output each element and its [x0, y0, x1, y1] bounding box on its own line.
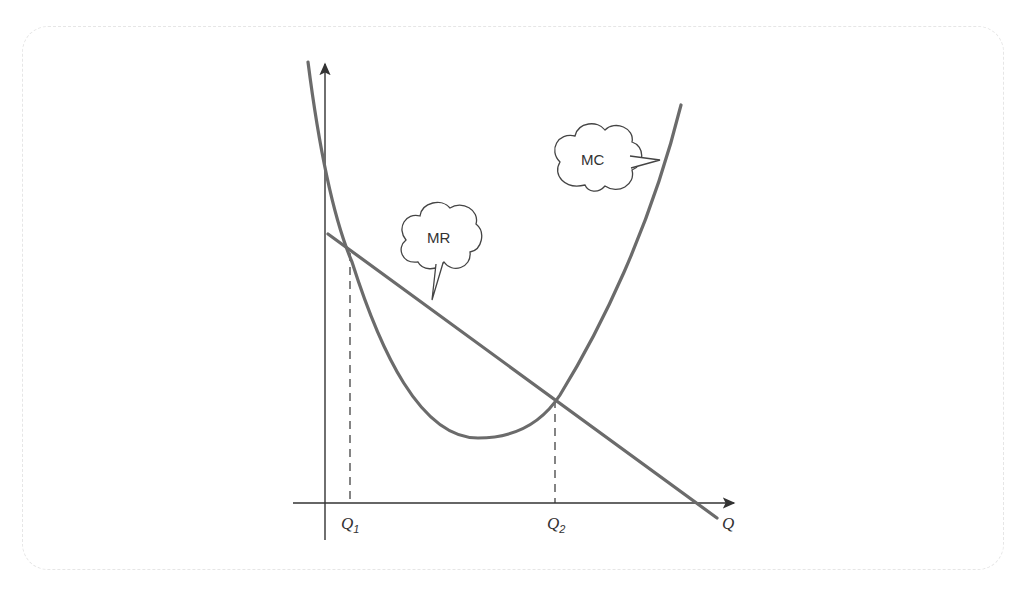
mr-label: MR [427, 229, 450, 246]
q2-tick-label: Q2 [547, 514, 565, 535]
mc-curve [308, 62, 681, 438]
mc-label-bubble: MC [555, 124, 660, 191]
mr-line [328, 234, 717, 518]
x-axis-label: Q [722, 514, 734, 533]
mc-label: MC [581, 151, 604, 168]
mc-mr-diagram: MC MR Q1 Q2 Q [0, 0, 1030, 592]
mr-label-bubble: MR [401, 202, 482, 300]
q1-tick-label: Q1 [341, 514, 359, 535]
